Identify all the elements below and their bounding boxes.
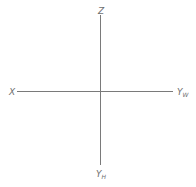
axes-svg: Z X YW YH <box>0 0 196 187</box>
axis-label-z-main: Z <box>97 6 105 16</box>
axis-label-yw: YW <box>177 87 190 98</box>
axis-label-x: X <box>8 87 16 97</box>
axis-label-yh-subscript: H <box>102 173 107 180</box>
axis-label-yw-subscript: W <box>183 91 190 98</box>
axis-label-yh: YH <box>96 169 107 180</box>
projection-axes-diagram: Z X YW YH <box>0 0 196 187</box>
axis-label-z: Z <box>97 6 105 16</box>
axis-label-x-main: X <box>8 87 16 97</box>
